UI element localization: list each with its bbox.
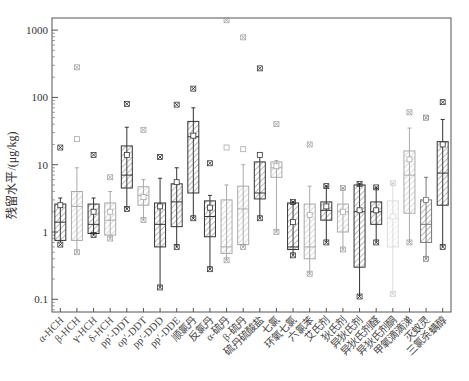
box-5 <box>121 101 132 211</box>
mean-marker <box>124 152 129 157</box>
box-22 <box>404 110 415 245</box>
y-axis-label: 残留水平/(μg/kg) <box>5 131 19 218</box>
box-plot-chart: 0.11101001000 α-HCHβ-HCHγ-HCHδ-HCHpp′-DD… <box>0 0 469 381</box>
box-23 <box>421 115 432 261</box>
mean-marker <box>241 147 246 152</box>
box-3 <box>88 152 99 237</box>
box-20 <box>371 185 382 245</box>
mean-marker <box>74 137 79 142</box>
mean-marker <box>108 209 113 214</box>
box-4 <box>105 175 116 241</box>
mean-marker <box>141 195 146 200</box>
plot-frame <box>52 18 451 312</box>
mean-marker <box>307 212 312 217</box>
box-11 <box>221 18 232 263</box>
mean-marker <box>158 204 163 209</box>
box-9 <box>188 86 199 221</box>
y-tick-label: 0.1 <box>34 293 48 305</box>
y-tick-label: 100 <box>32 91 49 103</box>
mean-marker <box>374 208 379 213</box>
mean-marker <box>224 145 229 150</box>
box-8 <box>171 102 182 249</box>
mean-marker <box>390 214 395 219</box>
mean-marker <box>291 220 296 225</box>
box-19 <box>354 181 365 299</box>
mean-marker <box>357 208 362 213</box>
mean-marker <box>174 180 179 185</box>
box-2 <box>71 65 82 255</box>
y-tick-label: 1 <box>43 226 49 238</box>
box-24 <box>437 100 448 250</box>
mean-marker <box>257 152 262 157</box>
chart-canvas: 0.11101001000 α-HCHβ-HCHγ-HCHδ-HCHpp′-DD… <box>0 0 469 381</box>
box-14 <box>271 122 282 235</box>
mean-marker <box>324 204 329 209</box>
mean-marker <box>207 205 212 210</box>
box-18 <box>337 186 348 252</box>
mean-marker <box>91 209 96 214</box>
box-6 <box>138 127 149 222</box>
box-10 <box>204 161 215 272</box>
x-axis: α-HCHβ-HCHγ-HCHδ-HCHpp′-DDTop′-DDTpp′-DD… <box>36 308 449 358</box>
box-1 <box>55 145 66 247</box>
box-series <box>55 18 448 299</box>
mean-marker <box>191 133 196 138</box>
box-12 <box>238 35 249 250</box>
mean-marker <box>274 164 279 169</box>
box-17 <box>321 184 332 245</box>
box-21 <box>387 181 398 297</box>
mean-marker <box>58 203 63 208</box>
y-tick-label: 1000 <box>26 24 49 36</box>
box-15 <box>288 199 299 257</box>
y-tick-label: 10 <box>37 159 49 171</box>
box-16 <box>304 142 315 276</box>
mean-marker <box>424 197 429 202</box>
mean-marker <box>440 142 445 147</box>
box-7 <box>155 155 166 290</box>
mean-marker <box>407 157 412 162</box>
y-axis: 0.11101001000 <box>26 24 58 310</box>
box-13 <box>254 66 265 221</box>
mean-marker <box>340 209 345 214</box>
